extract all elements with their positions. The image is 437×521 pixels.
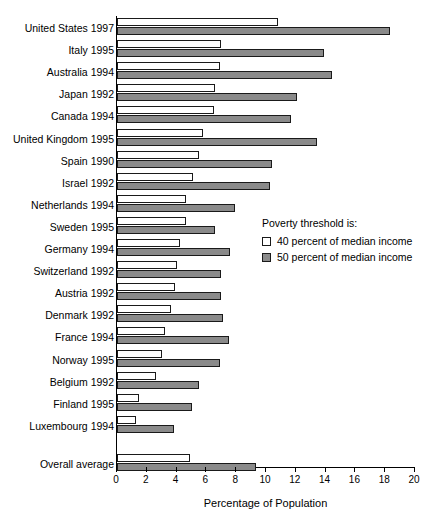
category-label: Japan 1992	[0, 87, 114, 101]
bar-row: Belgium 1992	[0, 371, 437, 393]
bar-50-percent	[117, 93, 297, 101]
x-axis-title: Percentage of Population	[116, 497, 415, 509]
bar-row: Italy 1995	[0, 39, 437, 61]
category-label: France 1994	[0, 330, 114, 344]
bar-row: Luxembourg 1994	[0, 415, 437, 437]
category-label: Overall average	[0, 457, 114, 471]
legend-swatch-white-icon	[262, 237, 271, 246]
legend-item-50-percent: 50 percent of median income	[262, 250, 432, 265]
bar-50-percent	[117, 381, 199, 389]
category-label: Switzerland 1992	[0, 264, 114, 278]
bar-row: Finland 1995	[0, 393, 437, 415]
bar-50-percent	[117, 359, 220, 367]
bar-40-percent	[117, 217, 186, 225]
x-tick-label: 0	[104, 474, 128, 486]
legend-label-50-percent: 50 percent of median income	[277, 250, 412, 265]
bar-50-percent	[117, 71, 332, 79]
category-label: Israel 1992	[0, 176, 114, 190]
bar-40-percent	[117, 416, 136, 424]
bar-50-percent	[117, 226, 215, 234]
bar-40-percent	[117, 40, 221, 48]
bar-row: Denmark 1992	[0, 304, 437, 326]
bar-50-percent	[117, 115, 291, 123]
x-tick-label: 20	[402, 474, 426, 486]
legend-swatch-gray-icon	[262, 253, 271, 262]
bar-row: Overall average	[0, 453, 437, 475]
bar-40-percent	[117, 151, 199, 159]
bar-row: France 1994	[0, 326, 437, 348]
bar-40-percent	[117, 195, 186, 203]
category-label: United States 1997	[0, 21, 114, 35]
bar-40-percent	[117, 84, 215, 92]
bar-40-percent	[117, 106, 214, 114]
x-tick-label: 16	[342, 474, 366, 486]
bar-50-percent	[117, 403, 192, 411]
category-label: Spain 1990	[0, 154, 114, 168]
x-tick	[176, 467, 177, 472]
x-tick	[205, 467, 206, 472]
plot-area: United States 1997Italy 1995Australia 19…	[0, 0, 437, 521]
bar-40-percent	[117, 261, 177, 269]
x-tick-label: 18	[372, 474, 396, 486]
bar-50-percent	[117, 182, 270, 190]
category-label: Belgium 1992	[0, 375, 114, 389]
bar-50-percent	[117, 270, 221, 278]
x-tick-label: 14	[313, 474, 337, 486]
category-label: Norway 1995	[0, 353, 114, 367]
x-tick	[146, 467, 147, 472]
category-label: Finland 1995	[0, 397, 114, 411]
bar-row: Austria 1992	[0, 282, 437, 304]
bar-50-percent	[117, 314, 223, 322]
category-label: Netherlands 1994	[0, 198, 114, 212]
legend-label-40-percent: 40 percent of median income	[277, 234, 412, 249]
x-tick-label: 2	[134, 474, 158, 486]
x-tick	[235, 467, 236, 472]
bar-row: United Kingdom 1995	[0, 128, 437, 150]
x-tick-label: 8	[223, 474, 247, 486]
bar-50-percent	[117, 204, 235, 212]
x-tick-label: 6	[193, 474, 217, 486]
bar-row: Spain 1990	[0, 150, 437, 172]
bar-50-percent	[117, 292, 221, 300]
bar-40-percent	[117, 173, 193, 181]
x-tick	[116, 467, 117, 472]
bar-row: Japan 1992	[0, 83, 437, 105]
category-label: Germany 1994	[0, 242, 114, 256]
x-tick	[414, 467, 415, 472]
bar-40-percent	[117, 62, 220, 70]
legend-title: Poverty threshold is:	[262, 216, 432, 231]
bar-40-percent	[117, 327, 165, 335]
category-label: Canada 1994	[0, 109, 114, 123]
category-label: United Kingdom 1995	[0, 132, 114, 146]
category-label: Austria 1992	[0, 286, 114, 300]
bar-row: Norway 1995	[0, 349, 437, 371]
bar-40-percent	[117, 394, 139, 402]
category-label: Australia 1994	[0, 65, 114, 79]
chart-legend: Poverty threshold is: 40 percent of medi…	[262, 216, 432, 265]
bar-50-percent	[117, 160, 272, 168]
bar-row: United States 1997	[0, 17, 437, 39]
bar-50-percent	[117, 138, 317, 146]
bar-40-percent	[117, 350, 162, 358]
x-tick	[354, 467, 355, 472]
bar-50-percent	[117, 425, 174, 433]
bar-50-percent	[117, 336, 229, 344]
bar-40-percent	[117, 18, 278, 26]
x-tick-label: 4	[164, 474, 188, 486]
x-tick	[325, 467, 326, 472]
bar-50-percent	[117, 27, 390, 35]
bar-50-percent	[117, 49, 324, 57]
x-tick	[265, 467, 266, 472]
x-tick-label: 12	[283, 474, 307, 486]
poverty-rate-bar-chart: United States 1997Italy 1995Australia 19…	[0, 0, 437, 521]
category-label: Sweden 1995	[0, 220, 114, 234]
x-tick	[295, 467, 296, 472]
bar-40-percent	[117, 283, 175, 291]
x-tick	[384, 467, 385, 472]
category-label: Luxembourg 1994	[0, 419, 114, 433]
bar-50-percent	[117, 248, 230, 256]
bar-row: Australia 1994	[0, 61, 437, 83]
bar-40-percent	[117, 372, 156, 380]
category-label: Italy 1995	[0, 43, 114, 57]
bar-40-percent	[117, 454, 190, 462]
